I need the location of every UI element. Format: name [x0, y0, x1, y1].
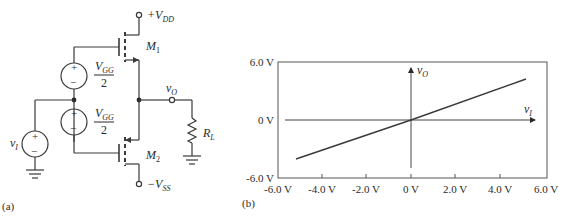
- vgg-top-plus: +: [71, 61, 77, 73]
- vi-label: vI: [10, 136, 18, 152]
- x-axis-label: vI: [524, 102, 532, 118]
- vdd-terminal-icon: [136, 12, 141, 17]
- x-tick-label: -2.0 V: [352, 183, 380, 195]
- svg-text:VGG: VGG: [95, 106, 114, 122]
- vgg-bot-plus: +: [71, 107, 77, 119]
- vgg-top-fraction: VGG 2: [94, 59, 114, 90]
- x-tick-label: 0 V: [403, 183, 419, 195]
- x-ticks: [322, 174, 500, 178]
- vo-terminal-icon: [169, 97, 174, 102]
- vgg-bot-minus: −: [70, 122, 76, 134]
- panel-a-label: (a): [2, 200, 15, 213]
- m1-label: M1: [145, 39, 160, 55]
- x-tick-label: -4.0 V: [308, 183, 336, 195]
- ground-icon-rl: [183, 156, 201, 164]
- vi-plus: +: [32, 130, 38, 142]
- m2-label: M2: [145, 148, 160, 164]
- x-tick-label: -6.0 V: [264, 183, 292, 195]
- x-tick-label: 4.0 V: [488, 183, 512, 195]
- resistor-rl-icon: [188, 118, 196, 143]
- rl-label: RL: [202, 126, 215, 142]
- y-axis-label: vO: [417, 63, 428, 79]
- x-tick-label: 6.0 V: [534, 183, 558, 195]
- x-tick-label: 2.0 V: [443, 183, 467, 195]
- figure-canvas: + − + − + − +VDD −VSS M1 M2 vO vI RL VGG…: [0, 0, 566, 221]
- y-tick-label: 0 V: [258, 114, 274, 126]
- vgg-top-minus: −: [70, 76, 76, 88]
- transfer-chart: vO vI 6.0 V 0 V -6.0 V -6.0 V -4.0 V -2.…: [242, 56, 558, 210]
- vss-terminal-icon: [136, 181, 141, 186]
- vgg-bottom-fraction: VGG 2: [94, 106, 114, 137]
- vi-minus: −: [31, 145, 37, 157]
- svg-text:2: 2: [101, 123, 107, 137]
- vss-label: −VSS: [147, 177, 170, 193]
- panel-b-label: (b): [242, 197, 255, 210]
- vo-label: vO: [166, 81, 177, 97]
- svg-text:VGG: VGG: [95, 59, 114, 75]
- svg-text:2: 2: [101, 76, 107, 90]
- ground-icon-vi: [26, 170, 44, 178]
- circuit-schematic: [22, 12, 201, 186]
- y-tick-label: 6.0 V: [250, 56, 274, 68]
- vdd-label: +VDD: [147, 8, 174, 24]
